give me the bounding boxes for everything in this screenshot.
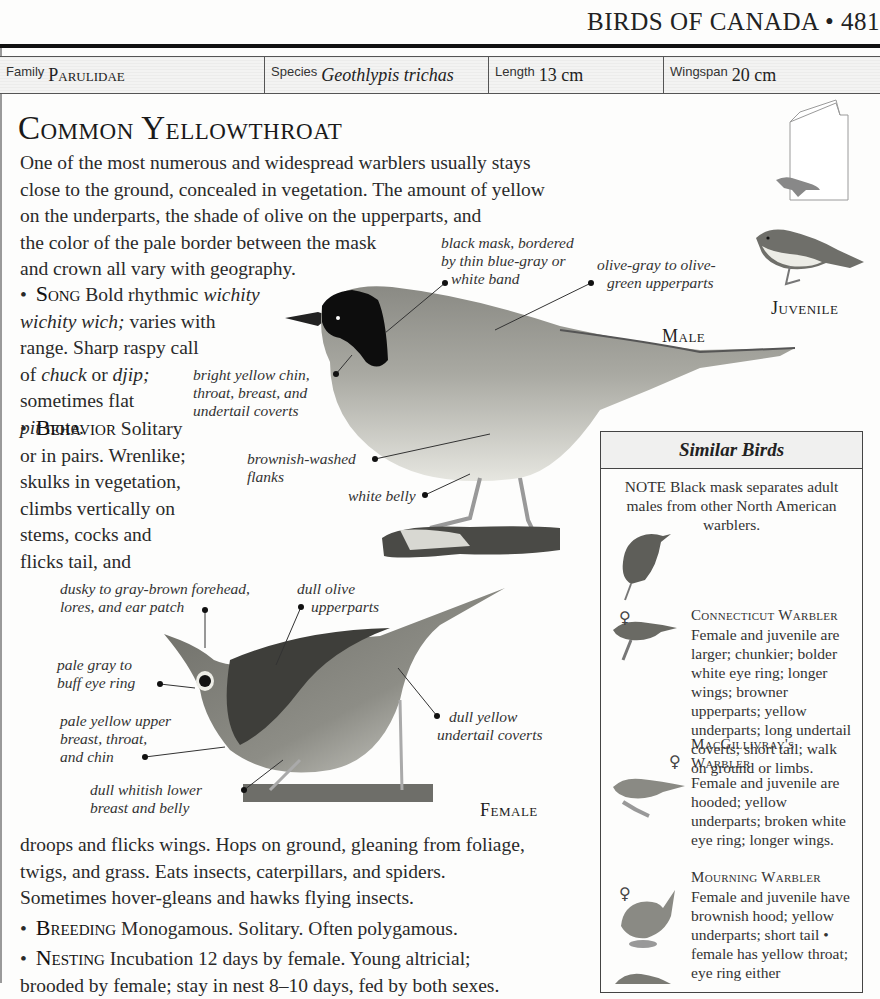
breeding-heading: Breeding bbox=[36, 915, 117, 940]
male-label: Male bbox=[662, 326, 705, 347]
wingspan-label: Wingspan bbox=[670, 64, 728, 79]
similar-bird-name: Connecticut Warbler bbox=[691, 606, 856, 625]
behavior-text: Solitary bbox=[121, 418, 183, 439]
song-text: of bbox=[20, 364, 41, 385]
annotation-belly: white belly bbox=[348, 487, 416, 505]
annotation-line: buff eye ring bbox=[57, 674, 135, 692]
male-leader-dots bbox=[333, 280, 594, 498]
annotation-undertail: dull yellow undertail coverts bbox=[437, 708, 542, 744]
annotation-line: dusky to gray-brown forehead, bbox=[60, 580, 250, 598]
breeding-section: • Breeding Monogamous. Solitary. Often p… bbox=[20, 915, 600, 943]
annotation-upperparts: olive-gray to olive- green upperparts bbox=[597, 256, 716, 292]
behavior-line: Sometimes hover-gleans and hawks flying … bbox=[20, 885, 600, 912]
species-title: Common Yellowthroat bbox=[18, 110, 342, 147]
female-leader-dots bbox=[142, 604, 440, 793]
song-text: or bbox=[87, 364, 113, 385]
behavior-line: or in pairs. Wrenlike; bbox=[20, 443, 255, 470]
family-cell: Family Parulidae bbox=[0, 57, 265, 93]
length-label: Length bbox=[495, 64, 535, 79]
annotation-chin: bright yellow chin, throat, breast, and … bbox=[193, 366, 310, 420]
annotation-line: black mask, bordered bbox=[441, 234, 574, 252]
song-text-italic: wichity bbox=[203, 284, 259, 305]
connecticut-female-icon bbox=[623, 534, 671, 600]
nesting-heading: Nesting bbox=[36, 945, 105, 970]
breeding-text: Monogamous. Solitary. Often polygamous. bbox=[121, 918, 458, 939]
bottom-text: droops and flicks wings. Hops on ground,… bbox=[20, 832, 600, 999]
song-text-italic: wichity wich; bbox=[20, 311, 125, 332]
annotation-line: lores, and ear patch bbox=[60, 598, 250, 616]
song-heading: Song bbox=[36, 281, 81, 306]
similar-bird-name: Mourning Warbler bbox=[691, 868, 856, 887]
annotation-line: pale yellow upper bbox=[60, 712, 171, 730]
juvenile-label: Juvenile bbox=[771, 298, 838, 319]
female-bird-illustration bbox=[164, 588, 505, 802]
behavior-line: twigs, and grass. Eats insects, caterpil… bbox=[20, 859, 600, 886]
behavior-line: stems, cocks and bbox=[20, 522, 255, 549]
nesting-section: • Nesting Incubation 12 days by female. … bbox=[20, 945, 600, 973]
behavior-section: • Behavior Solitary or in pairs. Wrenlik… bbox=[20, 415, 255, 575]
intro-line: close to the ground, concealed in vegeta… bbox=[20, 177, 620, 204]
similar-bird-text: Female and juvenile are hooded; yellow u… bbox=[691, 773, 856, 849]
annotation-line: white belly bbox=[348, 487, 416, 505]
annotation-line: upperparts bbox=[297, 598, 379, 616]
species-cell: Species Geothlypis trichas bbox=[265, 57, 489, 93]
family-value: Parulidae bbox=[48, 65, 124, 86]
annotation-line: green upperparts bbox=[597, 274, 716, 292]
male-leader-lines bbox=[336, 283, 591, 495]
behavior-line: droops and flicks wings. Hops on ground,… bbox=[20, 832, 600, 859]
female-leader-lines bbox=[145, 607, 437, 790]
similar-bird-macgillivray: MacGillivray's Warbler Female and juveni… bbox=[691, 735, 856, 849]
song-text: range. Sharp raspy call bbox=[20, 337, 199, 358]
header-rule bbox=[0, 44, 880, 48]
female-label: Female bbox=[480, 800, 538, 821]
annotation-line: throat, breast, and bbox=[193, 384, 310, 402]
species-label: Species bbox=[271, 64, 317, 79]
annotation-line: flanks bbox=[247, 468, 356, 486]
annotation-line: breast and belly bbox=[90, 799, 202, 817]
wingspan-cell: Wingspan 20 cm bbox=[664, 57, 880, 93]
behavior-line: flicks tail, and bbox=[20, 549, 255, 576]
annotation-eye-ring: pale gray to buff eye ring bbox=[57, 656, 135, 692]
similar-birds-illustrations bbox=[601, 432, 691, 992]
species-value: Geothlypis trichas bbox=[321, 65, 454, 86]
length-cell: Length 13 cm bbox=[489, 57, 664, 93]
wingspan-value: 20 cm bbox=[732, 65, 777, 86]
annotation-female-upperparts: dull olive upperparts bbox=[297, 580, 379, 616]
bullet-icon: • bbox=[20, 284, 27, 305]
annotation-line: pale gray to bbox=[57, 656, 135, 674]
bullet-icon: • bbox=[20, 948, 27, 969]
annotation-line: brownish-washed bbox=[247, 450, 356, 468]
song-text: varies with bbox=[125, 311, 216, 332]
song-text: sometimes flat bbox=[20, 390, 134, 411]
annotation-line: breast, throat, bbox=[60, 730, 171, 748]
similar-bird-mourning: Mourning Warbler Female and juvenile hav… bbox=[691, 868, 856, 982]
annotation-line: dull olive bbox=[297, 580, 379, 598]
mourning-male-icon bbox=[615, 974, 671, 984]
range-map-icon bbox=[776, 100, 848, 200]
annotation-line: and chin bbox=[60, 748, 171, 766]
female-symbol-icon: ♀ bbox=[619, 884, 631, 903]
similar-bird-text: Female and juvenile have brownish hood; … bbox=[691, 887, 856, 982]
annotation-line: white band bbox=[441, 270, 574, 288]
nesting-text: brooded by female; stay in nest 8–10 day… bbox=[20, 973, 600, 999]
info-bar: Family Parulidae Species Geothlypis tric… bbox=[0, 56, 880, 94]
macgillivray-icon bbox=[613, 779, 685, 816]
annotation-forehead: dusky to gray-brown forehead, lores, and… bbox=[60, 580, 250, 616]
female-symbol-icon: ♀ bbox=[619, 608, 631, 627]
similar-bird-name: MacGillivray's Warbler bbox=[691, 735, 856, 773]
annotation-line: by thin blue-gray or bbox=[441, 252, 574, 270]
annotation-female-belly: dull whitish lower breast and belly bbox=[90, 781, 202, 817]
behavior-line: skulks in vegetation, bbox=[20, 469, 255, 496]
annotation-line: dull whitish lower bbox=[90, 781, 202, 799]
family-label: Family bbox=[6, 64, 44, 79]
annotation-flanks: brownish-washed flanks bbox=[247, 450, 356, 486]
song-text-italic: chuck bbox=[41, 364, 86, 385]
annotation-line: undertail coverts bbox=[437, 726, 542, 744]
juvenile-bird-illustration bbox=[756, 230, 864, 284]
song-text: Bold rhythmic bbox=[85, 284, 203, 305]
annotation-line: dull yellow bbox=[437, 708, 542, 726]
bullet-icon: • bbox=[20, 918, 27, 939]
bullet-icon: • bbox=[20, 418, 27, 439]
intro-line: One of the most numerous and widespread … bbox=[20, 150, 620, 177]
song-text-italic: djip; bbox=[113, 364, 150, 385]
